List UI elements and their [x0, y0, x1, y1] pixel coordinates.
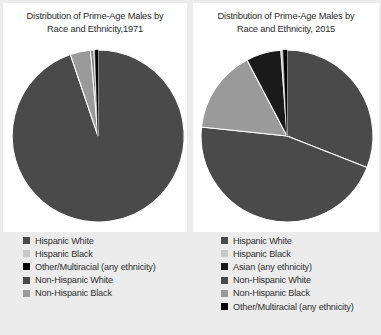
- legend-item[interactable]: Other/Multiracial (any ethnicity): [23, 260, 190, 273]
- legend-swatch-hispanic-black: [23, 250, 30, 257]
- legend-label: Non-Hispanic Black: [233, 288, 310, 298]
- figure-root: Distribution of Prime-Age Males by Race …: [0, 0, 381, 335]
- legend-label: Non-Hispanic Black: [35, 288, 112, 298]
- legend-item[interactable]: Hispanic Black: [221, 247, 381, 260]
- legend-swatch-hispanic-white: [221, 237, 228, 244]
- pie-svg-2015: [193, 3, 379, 232]
- pie-svg-1971: [3, 3, 187, 232]
- legend-label: Asian (any ethnicity): [233, 262, 312, 272]
- legend-label: Hispanic Black: [35, 249, 93, 259]
- legend-item[interactable]: Other/Multiracial (any ethnicity): [221, 300, 381, 313]
- legend-2015: Hispanic White Hispanic Black Asian (any…: [191, 234, 381, 313]
- pie-slices-2015: [201, 50, 373, 222]
- legend-swatch-non-hispanic-white: [23, 277, 30, 284]
- chart-panel-1971: Distribution of Prime-Age Males by Race …: [0, 0, 190, 335]
- legend-label: Hispanic White: [35, 236, 94, 246]
- legend-label: Hispanic White: [233, 236, 292, 246]
- legend-label: Other/Multiracial (any ethnicity): [233, 302, 354, 312]
- legend-swatch-non-hispanic-white: [221, 277, 228, 284]
- legend-swatch-hispanic-black: [221, 250, 228, 257]
- pie-slices-1971: [12, 50, 184, 222]
- pie-chart-1971: [3, 3, 187, 232]
- legend-swatch-other-multiracial: [221, 303, 228, 310]
- legend-item[interactable]: Hispanic White: [23, 234, 190, 247]
- pie-chart-2015: [193, 3, 379, 232]
- legend-item[interactable]: Non-Hispanic Black: [23, 287, 190, 300]
- legend-swatch-non-hispanic-black: [23, 290, 30, 297]
- chart-panel-2015: Distribution of Prime-Age Males by Race …: [191, 0, 381, 335]
- legend-item[interactable]: Non-Hispanic White: [23, 274, 190, 287]
- chart-card-1971: Distribution of Prime-Age Males by Race …: [3, 3, 187, 232]
- legend-item[interactable]: Hispanic White: [221, 234, 381, 247]
- legend-label: Non-Hispanic White: [233, 275, 311, 285]
- legend-swatch-hispanic-white: [23, 237, 30, 244]
- legend-item[interactable]: Asian (any ethnicity): [221, 260, 381, 273]
- legend-swatch-non-hispanic-black: [221, 290, 228, 297]
- legend-item[interactable]: Non-Hispanic White: [221, 274, 381, 287]
- legend-swatch-asian: [221, 263, 228, 270]
- legend-swatch-other-multiracial: [23, 263, 30, 270]
- chart-card-2015: Distribution of Prime-Age Males by Race …: [193, 3, 379, 232]
- legend-label: Hispanic Black: [233, 249, 291, 259]
- legend-label: Other/Multiracial (any ethnicity): [35, 262, 156, 272]
- legend-label: Non-Hispanic White: [35, 275, 113, 285]
- legend-item[interactable]: Non-Hispanic Black: [221, 287, 381, 300]
- legend-item[interactable]: Hispanic Black: [23, 247, 190, 260]
- legend-1971: Hispanic White Hispanic Black Other/Mult…: [0, 234, 190, 300]
